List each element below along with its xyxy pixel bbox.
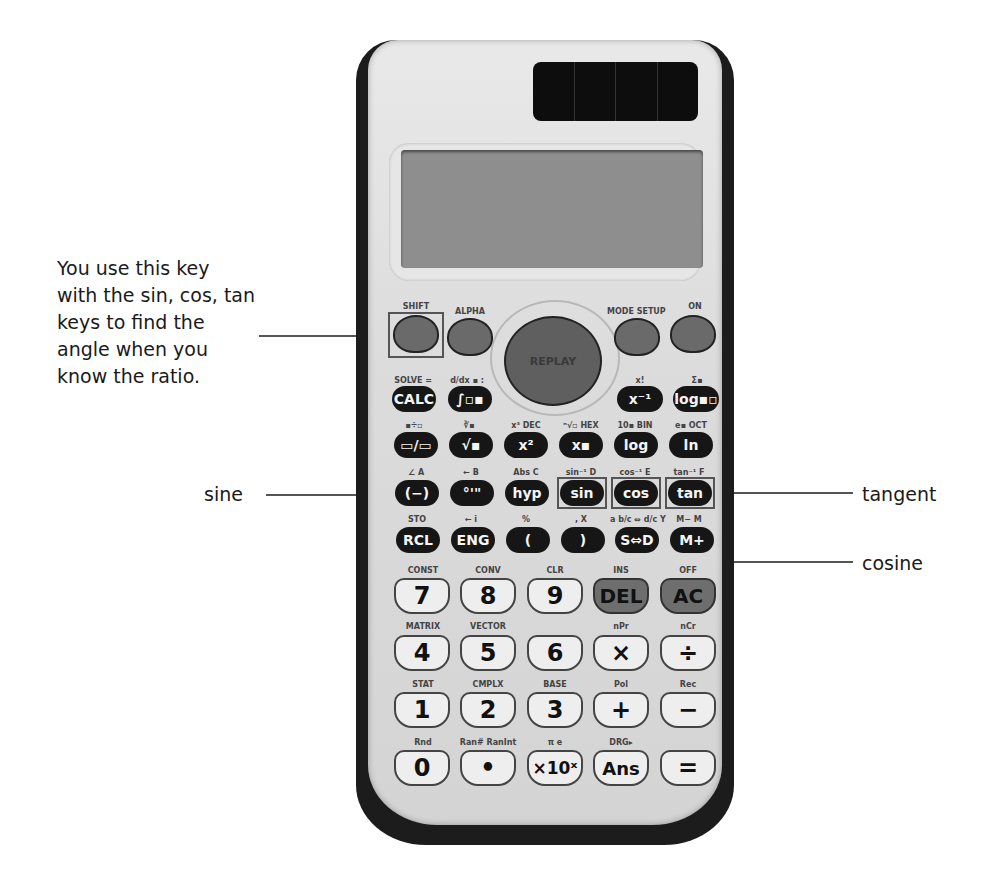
clr-label: CLR (530, 566, 580, 575)
calc-key[interactable]: CALC (392, 386, 436, 412)
off-label: OFF (663, 566, 713, 575)
ran-label: Ran# RanInt (456, 738, 520, 747)
degrees-key[interactable]: °'" (450, 480, 494, 506)
alpha-key[interactable] (447, 318, 493, 356)
ncr-label: nCr (663, 622, 713, 631)
row2-label-3: x³ DEC (501, 421, 551, 430)
row4-label-3: % (504, 515, 548, 524)
integral-key[interactable]: ∫▫▪ (448, 386, 492, 412)
logab-key[interactable]: log▪▫ (673, 386, 719, 412)
factorial-label: x! (620, 376, 660, 385)
minus-key[interactable]: − (660, 692, 716, 728)
pol-label: Pol (596, 680, 646, 689)
rnd-label: Rnd (398, 738, 448, 747)
row4-label-1: STO (395, 515, 439, 524)
const-label: CONST (398, 566, 448, 575)
cmplx-label: CMPLX (463, 680, 513, 689)
key-3[interactable]: 3 (527, 692, 583, 728)
npr-label: nPr (596, 622, 646, 631)
key-2[interactable]: 2 (460, 692, 516, 728)
sin-highlight-box (557, 477, 607, 509)
row2-label-4: ⁿ√▫ HEX (556, 421, 606, 430)
replay-label: REPLAY (530, 355, 576, 368)
row3-label-3: Abs C (504, 468, 548, 477)
mplus-key[interactable]: M+ (670, 527, 714, 553)
pi-e-label: π e (530, 738, 580, 747)
divide-key[interactable]: ÷ (660, 635, 716, 671)
log-key[interactable]: log (614, 432, 658, 458)
plus-key[interactable]: + (593, 692, 649, 728)
sqrt-key[interactable]: √▪ (449, 432, 493, 458)
equals-key[interactable]: = (660, 750, 716, 786)
base-label: BASE (530, 680, 580, 689)
sd-key[interactable]: S⇔D (615, 527, 659, 553)
tan-highlight-box (665, 477, 715, 509)
cosine-label: cosine (862, 550, 923, 577)
key-0[interactable]: 0 (394, 750, 450, 786)
row2-label-2: ∛▪ (447, 421, 491, 430)
row3-label-1: ∠ A (394, 468, 438, 477)
row3-label-6: tan⁻¹ F (666, 468, 712, 477)
vector-label: VECTOR (463, 622, 513, 631)
close-paren-key[interactable]: ) (561, 527, 605, 553)
hyp-key[interactable]: hyp (505, 480, 549, 506)
alpha-label: ALPHA (450, 307, 490, 316)
solar-panel (533, 62, 698, 121)
shift-label: SHIFT (398, 302, 434, 311)
mode-key[interactable] (614, 318, 660, 356)
open-paren-key[interactable]: ( (506, 527, 550, 553)
exp10-key[interactable]: ×10ˣ (527, 750, 583, 786)
key-5[interactable]: 5 (460, 635, 516, 671)
row2-label-1: ▪÷▫ (392, 421, 436, 430)
shift-key-annotation: You use this key with the sin, cos, tan … (57, 255, 317, 390)
solve-label: SOLVE = (390, 376, 436, 385)
power-key[interactable]: x▪ (559, 432, 603, 458)
negative-key[interactable]: (−) (395, 480, 439, 506)
tangent-label: tangent (862, 481, 936, 508)
key-8[interactable]: 8 (460, 578, 516, 614)
row3-label-2: ← B (449, 468, 493, 477)
on-label: ON (680, 302, 710, 311)
del-key[interactable]: DEL (593, 578, 649, 614)
stat-label: STAT (398, 680, 448, 689)
eng-key[interactable]: ENG (451, 527, 495, 553)
sigma-label: Σ▪ (677, 376, 717, 385)
rcl-key[interactable]: RCL (396, 527, 440, 553)
conv-label: CONV (463, 566, 513, 575)
tangent-leader-line (716, 492, 853, 494)
cos-highlight-box (611, 477, 661, 509)
key-4[interactable]: 4 (394, 635, 450, 671)
fraction-key[interactable]: ▭/▭ (394, 432, 438, 458)
row4-label-4: , X (559, 515, 603, 524)
row3-label-5: cos⁻¹ E (612, 468, 658, 477)
row4-label-5: a b/c ⇔ d/c Y (610, 515, 660, 524)
row2-label-6: e▪ OCT (666, 421, 716, 430)
ac-key[interactable]: AC (660, 578, 716, 614)
sine-label: sine (204, 481, 243, 508)
reciprocal-key[interactable]: x⁻¹ (617, 386, 663, 412)
row4-label-6: M− M (667, 515, 711, 524)
square-key[interactable]: x² (504, 432, 548, 458)
shift-highlight-box (388, 312, 444, 358)
matrix-label: MATRIX (398, 622, 448, 631)
row3-label-4: sin⁻¹ D (558, 468, 604, 477)
mode-label: MODE SETUP (607, 307, 663, 316)
on-key[interactable] (670, 315, 716, 353)
row4-label-2: ← i (449, 515, 493, 524)
ddx-label: d/dx ▪ : (444, 376, 490, 385)
key-9[interactable]: 9 (527, 578, 583, 614)
row2-label-5: 10▪ BIN (610, 421, 660, 430)
lcd-display (401, 150, 703, 268)
rec-label: Rec (663, 680, 713, 689)
decimal-key[interactable]: • (460, 750, 516, 786)
key-1[interactable]: 1 (394, 692, 450, 728)
multiply-key[interactable]: × (593, 635, 649, 671)
key-7[interactable]: 7 (394, 578, 450, 614)
drg-label: DRG▸ (596, 738, 646, 747)
ln-key[interactable]: ln (669, 432, 713, 458)
key-6[interactable]: 6 (527, 635, 583, 671)
replay-dpad[interactable]: REPLAY (504, 316, 602, 406)
ans-key[interactable]: Ans (593, 750, 649, 786)
ins-label: INS (596, 566, 646, 575)
